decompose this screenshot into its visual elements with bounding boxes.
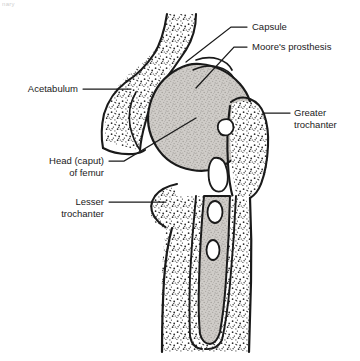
label-moores-prosthesis: Moore's prosthesis — [252, 41, 332, 52]
label-greater-trochanter-line2: trochanter — [294, 119, 337, 130]
label-capsule: Capsule — [252, 21, 287, 32]
label-lesser-trochanter-line1: Lesser — [75, 196, 104, 207]
hip-prosthesis-diagram: Capsule Moore's prosthesis Greater troch… — [0, 0, 360, 361]
label-acetabulum: Acetabulum — [28, 83, 78, 94]
label-greater-trochanter-line1: Greater — [294, 107, 326, 118]
label-lesser-trochanter-line2: trochanter — [61, 208, 104, 219]
label-head-of-femur-line1: Head (caput) — [49, 155, 104, 166]
leader-capsule — [186, 27, 247, 62]
greater-trochanter — [227, 98, 268, 198]
label-head-of-femur-line2: of femur — [69, 167, 104, 178]
